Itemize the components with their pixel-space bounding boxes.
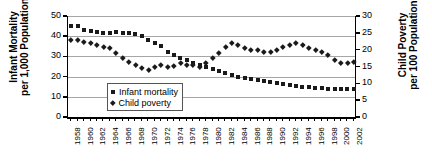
x-axis-tick-label: 1990 (279, 127, 287, 145)
x-axis-tick (179, 117, 180, 121)
x-axis-tick (282, 117, 283, 121)
data-point (307, 85, 311, 89)
data-point (140, 34, 144, 38)
x-axis-tick (186, 117, 187, 121)
data-point (107, 45, 112, 50)
data-point (101, 31, 105, 35)
legend-label-infant-mortality: Infant mortality (119, 87, 178, 97)
left-axis-title: Infant Mortality per 1,000 Population (8, 0, 30, 102)
data-point (313, 47, 318, 52)
x-axis-tick (269, 117, 270, 121)
diamond-marker-icon (110, 100, 115, 105)
data-point (236, 75, 240, 79)
data-point (256, 78, 260, 82)
data-point (288, 83, 292, 87)
data-point (89, 29, 93, 33)
data-point (159, 62, 164, 67)
right-axis-title-line2: per 100 Population (408, 0, 419, 89)
data-point (95, 30, 99, 34)
data-point (94, 42, 99, 47)
x-axis-tick-label: 1970 (151, 127, 159, 145)
x-axis-tick-label: 1978 (202, 127, 210, 145)
data-point (133, 62, 138, 67)
data-point (223, 71, 227, 75)
data-point (171, 63, 176, 68)
data-point (255, 47, 260, 52)
data-point (248, 47, 253, 52)
x-axis-tick (263, 117, 264, 121)
data-point (275, 81, 279, 85)
data-point (88, 40, 93, 45)
right-axis-tick-label: 15 (362, 62, 384, 71)
legend-item-infant-mortality: Infant mortality (111, 86, 178, 97)
chart-legend: Infant mortality Child poverty (107, 83, 183, 111)
data-point (352, 87, 356, 91)
x-axis-tick (308, 117, 309, 121)
x-axis-tick-label: 1972 (164, 127, 172, 145)
x-axis-tick (134, 117, 135, 121)
right-axis-tick (356, 32, 360, 34)
x-axis-tick-label: 1982 (228, 127, 236, 145)
x-axis-tick-label: 1974 (177, 127, 185, 145)
x-axis-tick (353, 117, 354, 121)
data-point (351, 59, 356, 64)
left-axis-tick (63, 35, 67, 37)
data-point (159, 44, 163, 48)
x-axis-tick-label: 1960 (87, 127, 95, 145)
legend-item-child-poverty: Child poverty (111, 97, 178, 108)
x-axis-tick (83, 117, 84, 121)
x-axis-tick (147, 117, 148, 121)
x-axis-tick-label: 1996 (318, 127, 326, 145)
left-axis-tick-label: 0 (39, 112, 61, 121)
right-axis-tick-label: 20 (362, 45, 384, 54)
data-point (320, 86, 324, 90)
data-point (281, 44, 286, 49)
x-axis-tick (301, 117, 302, 121)
right-axis-tick (356, 99, 360, 101)
data-point (82, 28, 86, 32)
data-point (126, 59, 131, 64)
x-axis-tick-label: 2000 (343, 127, 351, 145)
gridline (68, 36, 355, 37)
data-point (165, 64, 170, 69)
data-point (211, 67, 215, 71)
x-axis-tick-label: 1958 (74, 127, 82, 145)
left-axis-tick-label: 30 (39, 51, 61, 60)
x-axis-tick-label: 1966 (125, 127, 133, 145)
data-point (294, 84, 298, 88)
data-point (268, 80, 272, 84)
x-axis-tick (192, 117, 193, 121)
data-point (114, 50, 119, 55)
left-axis-tick-label: 40 (39, 31, 61, 40)
x-axis-tick (115, 117, 116, 121)
x-axis-tick-label: 1994 (305, 127, 313, 145)
data-point (319, 49, 324, 54)
right-axis-title: Child Poverty per 100 Population (397, 0, 419, 101)
data-point (287, 42, 292, 47)
x-axis-tick (173, 117, 174, 121)
data-point (139, 66, 144, 71)
x-axis-tick-label: 1988 (266, 127, 274, 145)
x-axis-tick (96, 117, 97, 121)
x-axis-tick-label: 1992 (292, 127, 300, 145)
data-point (69, 24, 73, 28)
x-axis-tick (289, 117, 290, 121)
data-point (223, 44, 228, 49)
x-axis-tick (340, 117, 341, 121)
x-axis-tick (109, 117, 110, 121)
x-axis-tick (218, 117, 219, 121)
x-axis-tick (205, 117, 206, 121)
data-point (268, 49, 273, 54)
data-point (300, 42, 305, 47)
data-point (345, 87, 349, 91)
x-axis-tick (334, 117, 335, 121)
right-axis-tick-label: 5 (362, 95, 384, 104)
x-axis-tick (128, 117, 129, 121)
data-point (184, 62, 189, 67)
x-axis-tick-label: 1998 (331, 127, 339, 145)
data-point (345, 61, 350, 66)
left-axis-tick (63, 116, 67, 118)
x-axis-tick (154, 117, 155, 121)
x-axis-tick (327, 117, 328, 121)
data-point (300, 85, 304, 89)
